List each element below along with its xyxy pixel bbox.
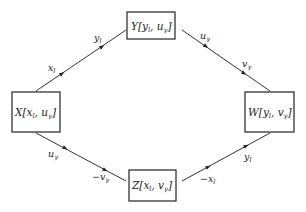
edge-label-xy-x: xl <box>48 62 55 75</box>
edge-y-w <box>182 30 270 91</box>
node-z: Z[xl, vγ] <box>129 170 176 201</box>
node-y: Y[yl, uγ] <box>127 12 175 39</box>
edge-label-yw-v: vγ <box>242 58 251 71</box>
edge-z-w <box>182 133 270 181</box>
arrowhead-y-on-zw <box>243 143 249 149</box>
edge-label-xz-u: uγ <box>48 148 58 161</box>
arrowhead-x-on-zw <box>205 164 211 170</box>
node-x: X[xl, uγ] <box>12 92 60 132</box>
edge-label-yw-u: uγ <box>200 30 210 43</box>
edge-label-zw-x: −xl <box>200 173 215 186</box>
edge-label-xz-v: −vγ <box>92 171 109 184</box>
edge-label-zw-y: yl <box>243 151 251 164</box>
edge-x-y <box>36 30 126 91</box>
edge-label-xy-y: yl <box>93 32 101 45</box>
node-w: W[yl, vγ] <box>245 92 294 132</box>
duality-diagram: xl yl uγ vγ uγ −vγ −xl yl Y[yl, uγ] X[xl… <box>0 0 306 212</box>
